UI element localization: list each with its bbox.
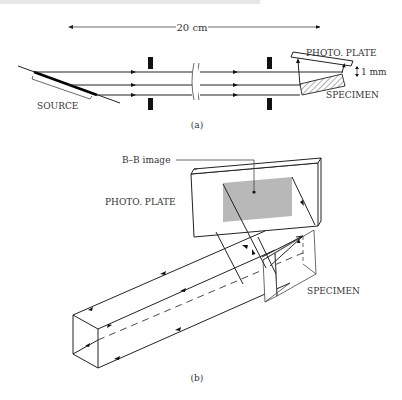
dimension-label: 20 cm [177,22,209,33]
bb-image-pointer [252,190,255,193]
bb-image-label: B–B image [122,155,170,165]
figure-a: 20 cm SOURCE [18,22,387,130]
specimen-label-b: SPECIMEN [307,286,360,296]
photo-plate-label-a: PHOTO. PLATE [306,48,376,58]
slit-2-top [267,57,272,69]
specimen-label-a: SPECIMEN [326,90,379,100]
source-label: SOURCE [37,101,78,111]
source-emitter [34,72,97,95]
gap-indicator: 1 mm [355,66,387,77]
photo-plate-label-b: PHOTO. PLATE [105,197,175,207]
slit-1-bottom [148,98,153,110]
gap-label: 1 mm [361,67,387,77]
diffracted-ray-1 [298,61,300,85]
caption-a: (a) [191,120,203,130]
slit-1-top [148,57,153,69]
diagram-canvas: 20 cm SOURCE [0,0,402,400]
source-bracket [32,76,92,99]
bb-image-region [223,177,292,222]
dimension-line: 20 cm [68,22,320,33]
beams [34,70,342,97]
dim-arrow-left [68,25,73,29]
slit-2-bottom [267,98,272,110]
caption-b: (b) [191,373,204,383]
break-symbol [192,63,199,100]
figure-b: B–B image PHOTO. PLATE [73,155,360,383]
cut-text-fragment [0,0,260,4]
